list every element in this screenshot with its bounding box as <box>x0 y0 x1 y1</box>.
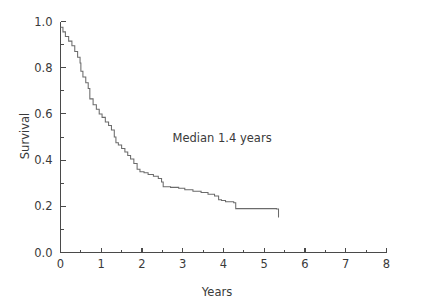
median-annotation-label: Median 1.4 years <box>173 131 272 145</box>
x-tick-label: 6 <box>301 257 308 271</box>
y-tick-label: 0.6 <box>34 107 52 121</box>
x-axis-title: Years <box>201 285 232 299</box>
y-tick-label: 0.2 <box>34 199 52 213</box>
y-axis-title: Survival <box>18 113 32 159</box>
y-tick-label: 1.0 <box>34 15 52 29</box>
x-tick-label: 5 <box>261 257 268 271</box>
y-tick-label: 0.8 <box>34 61 52 75</box>
x-tick-label: 0 <box>57 257 64 271</box>
y-tick-label: 0.0 <box>34 246 52 260</box>
x-tick-label: 3 <box>179 257 186 271</box>
y-tick-label: 0.4 <box>34 153 52 167</box>
x-tick-label: 4 <box>220 257 227 271</box>
x-tick-label: 2 <box>138 257 145 271</box>
survival-step-curve <box>61 27 279 217</box>
survival-plot-svg: 0123456780.00.20.40.60.81.0 Years Surviv… <box>0 0 425 307</box>
x-tick-label: 8 <box>383 257 390 271</box>
x-tick-label: 7 <box>342 257 349 271</box>
x-tick-label: 1 <box>98 257 105 271</box>
survival-chart-figure: 0123456780.00.20.40.60.81.0 Years Surviv… <box>0 0 425 307</box>
